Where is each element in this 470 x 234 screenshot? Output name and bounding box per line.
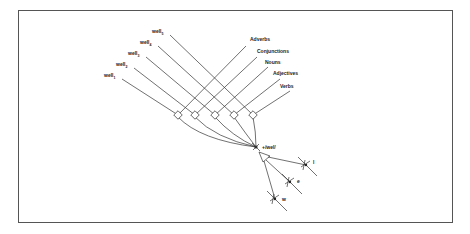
category-label: Adverbs: [250, 36, 270, 42]
category-label: Conjunctions: [257, 48, 289, 54]
lexical-network-diagram: well5 well4 well3 well2 well1 Adverbs Co…: [0, 0, 470, 234]
phoneme-label: w: [281, 196, 286, 202]
diamond-nodes: [174, 111, 257, 119]
word-label: well1: [103, 72, 115, 80]
word-label: well4: [139, 39, 151, 47]
convergence-label: +/wel/: [262, 144, 276, 150]
category-lines: [178, 46, 290, 115]
category-label: Adjectives: [273, 70, 298, 76]
word-label: well5: [151, 28, 163, 36]
word-sense-lines: [122, 35, 253, 115]
category-label: Verbs: [280, 83, 294, 89]
phoneme-label: e: [297, 178, 300, 184]
convergence-curves: [178, 117, 256, 147]
word-label: well3: [127, 50, 139, 58]
category-label: Nouns: [265, 59, 281, 65]
phoneme-node-e: [282, 174, 302, 194]
word-label: well2: [115, 61, 127, 69]
phoneme-label: l: [313, 159, 315, 165]
